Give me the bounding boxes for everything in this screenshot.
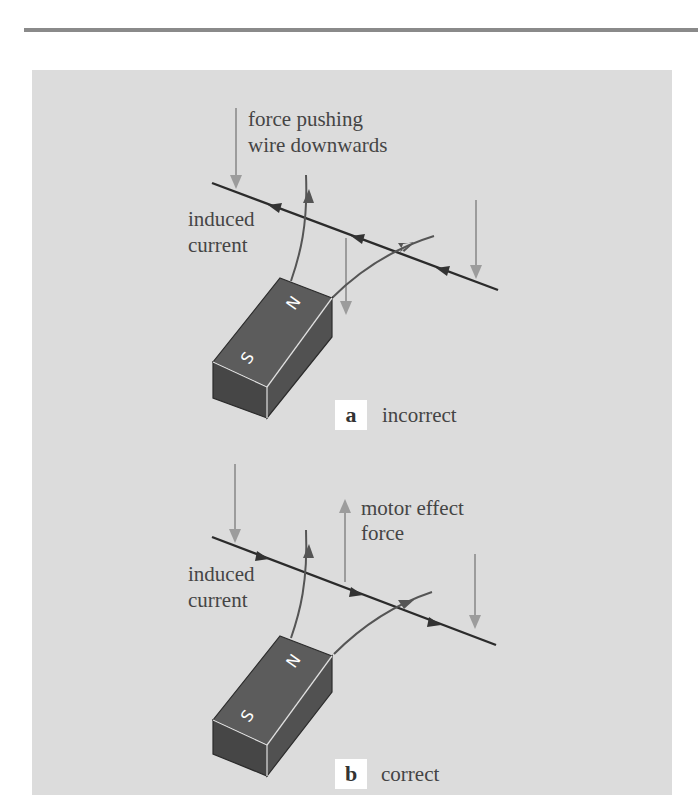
panel-caption-correct: correct [381,759,439,789]
bar-magnet: N S [213,636,332,776]
panel-tag-b: b [335,759,367,789]
force-label-line1: force pushing [248,107,363,132]
bar-magnet: N S [213,278,332,418]
field-arrowhead-icon [303,189,314,203]
force-label-line2: wire downwards [248,133,387,158]
field-line [332,236,434,298]
field-line [291,530,306,638]
induced-current-label-line1: induced [188,562,254,587]
induced-current-label-line2: current [188,233,247,258]
induced-current-label-line1: induced [188,207,254,232]
force-arrow-down-icon [340,238,352,315]
motor-effect-label-line2: force [361,521,404,546]
force-arrow-down-icon [229,464,241,543]
field-arrowhead-icon [303,544,314,558]
panel-caption-incorrect: incorrect [382,400,457,430]
induced-current-label-line2: current [188,588,247,613]
field-line [291,175,306,281]
motor-effect-label-line1: motor effect [361,496,464,521]
force-arrow-down-icon [470,200,482,279]
force-arrow-up-icon [339,499,351,582]
panel-tag-a: a [335,400,367,430]
force-arrow-down-icon [230,108,242,189]
force-arrow-down-icon [469,554,481,629]
